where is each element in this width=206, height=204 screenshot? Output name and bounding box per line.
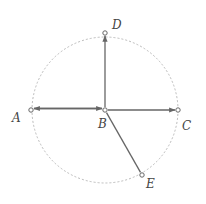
point-a (29, 108, 33, 112)
edge-b-e (106, 113, 140, 173)
point-label-b: B (97, 117, 107, 131)
point-e (140, 173, 144, 177)
point-d (103, 31, 107, 35)
point-b (103, 108, 107, 112)
point-label-c: C (182, 119, 191, 133)
point-label-a: A (11, 111, 21, 125)
point-label-e: E (145, 177, 155, 191)
point-c (176, 108, 180, 112)
circle-diagram: A B C D E (0, 0, 206, 204)
point-label-d: D (111, 18, 122, 32)
labels: A B C D E (11, 18, 191, 191)
